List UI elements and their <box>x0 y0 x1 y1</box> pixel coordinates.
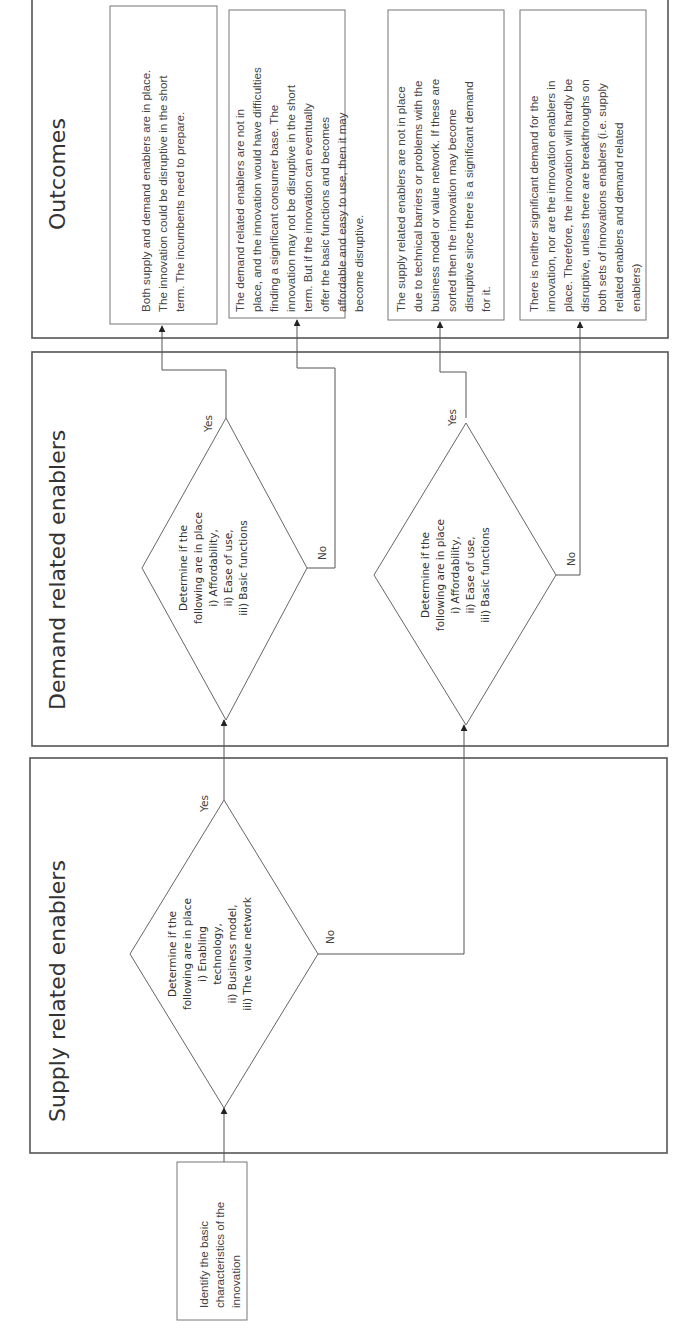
supply-yes-label: Yes <box>198 795 210 813</box>
svg-text:The innovation could be disrup: The innovation could be disruptive in th… <box>156 75 169 312</box>
connector-supply-no <box>318 725 464 954</box>
svg-text:sorted then the innovation may: sorted then the innovation may become <box>445 109 458 312</box>
svg-text:place. Therefore, the innovati: place. Therefore, the innovation will ha… <box>561 79 574 312</box>
svg-text:iii) Basic functions: iii) Basic functions <box>479 527 491 623</box>
outcomes-title: Outcomes <box>45 118 70 230</box>
svg-text:Determine if the: Determine if the <box>177 525 189 611</box>
svg-text:innovation: innovation <box>229 1255 242 1308</box>
svg-text:for it.: for it. <box>479 286 492 312</box>
demand1-no-label: No <box>316 546 328 560</box>
connector-demand1-yes <box>162 326 226 418</box>
svg-text:There is neither significant d: There is neither significant demand for … <box>527 95 540 312</box>
svg-text:The supply related enablers ar: The supply related enablers are not in p… <box>394 86 407 312</box>
svg-text:Determine if the: Determine if the <box>419 532 431 618</box>
svg-text:following are in place: following are in place <box>434 519 446 631</box>
demand1-yes-label: Yes <box>202 415 214 433</box>
demand2-no-label: No <box>565 552 577 566</box>
svg-text:iii) Basic functions: iii) Basic functions <box>237 520 249 616</box>
svg-text:enablers): enablers) <box>629 264 642 312</box>
demand-title: Demand related enablers <box>45 430 70 710</box>
supply-title: Supply related enablers <box>45 860 70 1122</box>
svg-text:due to technical barriers or p: due to technical barriers or problems wi… <box>411 81 424 312</box>
svg-text:affordable and easy to use, th: affordable and easy to use, then it may <box>335 112 348 312</box>
svg-text:following are in place: following are in place <box>192 512 204 624</box>
supply-lane <box>30 758 667 1153</box>
svg-text:i) Affordability,: i) Affordability, <box>207 529 219 607</box>
supply-no-label: No <box>324 930 336 944</box>
svg-text:place, and the innovation woul: place, and the innovation would have dif… <box>250 67 263 312</box>
svg-text:term. The incumbents need to p: term. The incumbents need to prepare. <box>173 112 186 312</box>
connector-demand2-no <box>556 322 580 575</box>
svg-text:both sets of innovations enabl: both sets of innovations enablers (i.e. … <box>595 83 608 312</box>
svg-text:ii) Ease of use,: ii) Ease of use, <box>222 530 234 607</box>
svg-text:business model or value networ: business model or value network. If thes… <box>428 79 441 312</box>
svg-text:technology,: technology, <box>211 923 223 985</box>
svg-text:disruptive since there is a si: disruptive since there is a significant … <box>462 81 475 312</box>
flowchart: Outcomes Demand related enablers Supply … <box>0 0 691 1340</box>
svg-text:ii) Ease of use,: ii) Ease of use, <box>464 537 476 614</box>
svg-text:innovation, nor are the innova: innovation, nor are the innovation enabl… <box>544 81 557 312</box>
supply-decision-diamond <box>130 800 318 1108</box>
svg-text:offer the basic functions and: offer the basic functions and becomes <box>318 117 331 312</box>
svg-text:disruptive, unless there are b: disruptive, unless there are breakthroug… <box>578 79 591 312</box>
svg-text:term. But if the innovation ca: term. But if the innovation can eventual… <box>301 103 314 312</box>
svg-text:Both supply and demand enabler: Both supply and demand enablers are in p… <box>139 70 152 312</box>
svg-text:Determine if the: Determine if the <box>166 911 178 997</box>
svg-text:The demand related enablers ar: The demand related enablers are not in <box>233 109 246 312</box>
svg-text:finding a significant consumer: finding a significant consumer base. The <box>267 105 280 312</box>
demand2-yes-label: Yes <box>446 409 458 427</box>
svg-text:characteristics of the: characteristics of the <box>213 1202 226 1308</box>
svg-text:following are in place: following are in place <box>181 898 193 1010</box>
svg-text:Identify the basic: Identify the basic <box>197 1221 210 1308</box>
svg-text:i) Affordability,: i) Affordability, <box>449 536 461 614</box>
svg-text:become disruptive.: become disruptive. <box>352 215 365 312</box>
connector-demand2-yes <box>440 322 466 418</box>
svg-text:related enablers and demand re: related enablers and demand related <box>612 123 625 313</box>
svg-text:innovation may not be disrupti: innovation may not be disruptive in the … <box>284 84 297 312</box>
svg-text:ii) Business model,: ii) Business model, <box>226 905 238 1004</box>
demand-lane <box>32 352 668 746</box>
svg-text:i) Enabling: i) Enabling <box>196 926 208 982</box>
svg-text:iii) The value network: iii) The value network <box>241 896 253 1011</box>
connector-demand1-no <box>297 320 335 568</box>
